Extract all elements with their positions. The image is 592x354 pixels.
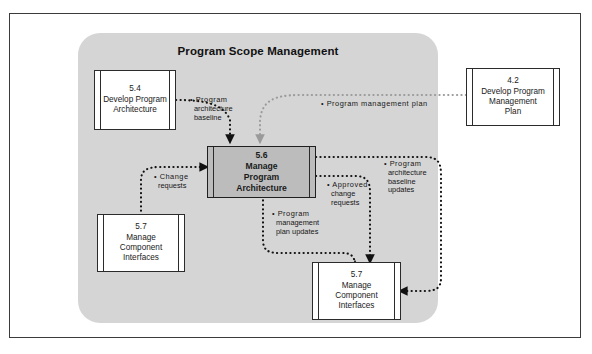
- process-node-manage-component-interfaces-bottom[interactable]: 5.7 Manage Component Interfaces: [312, 262, 401, 320]
- process-node-manage-component-interfaces-left[interactable]: 5.7 Manage Component Interfaces: [97, 214, 185, 272]
- node-side-bar-right: [553, 69, 559, 125]
- flow-label-line-4: updates: [388, 186, 414, 195]
- flow-label-program-management-plan-updates: • Program management plan updates: [272, 210, 319, 236]
- node-side-bar-right: [309, 147, 315, 197]
- node-name-line-2: Component: [335, 291, 377, 300]
- process-node-develop-program-management-plan[interactable]: 4.2 Develop Program Management Plan: [466, 68, 560, 126]
- node-name-line-2: Architecture: [113, 105, 157, 114]
- node-side-bar-left: [208, 147, 214, 197]
- node-name-line-3: Interfaces: [339, 301, 375, 310]
- flow-label-line-1: • Approved: [327, 180, 368, 189]
- process-node-manage-program-architecture[interactable]: 5.6 Manage Program Architecture: [207, 146, 316, 198]
- node-name-line-1: Develop Program: [103, 95, 167, 104]
- node-name-line-1: Manage: [342, 281, 372, 290]
- node-id: 5.7: [120, 222, 162, 232]
- flow-label-program-management-plan: • Program management plan: [321, 100, 428, 109]
- node-id: 5.7: [335, 270, 377, 280]
- node-name-line-2: Program: [244, 172, 279, 182]
- node-side-bar-left: [313, 263, 319, 319]
- node-name-line-1: Develop Program: [481, 87, 545, 96]
- flow-label-line-1: • Program management plan: [321, 99, 428, 108]
- node-name-line-2: Management: [489, 97, 537, 106]
- flow-label-line-1: • Program: [272, 209, 309, 218]
- flow-label-line-1: • Program: [384, 159, 421, 168]
- node-name-line-2: Component: [120, 243, 162, 252]
- node-side-bar-left: [467, 69, 473, 125]
- node-name-line-3: Plan: [505, 107, 521, 116]
- node-name-line-3: Interfaces: [123, 253, 159, 262]
- node-label: 5.7 Manage Component Interfaces: [327, 270, 385, 312]
- flow-label-change-requests: • Change requests: [154, 173, 189, 191]
- node-side-bar-right: [394, 263, 400, 319]
- node-id: 5.4: [103, 84, 167, 94]
- flow-label-line-1: • Program: [190, 95, 227, 104]
- node-id: 4.2: [481, 76, 545, 86]
- node-name-line-1: Manage: [246, 161, 278, 171]
- flow-label-line-3: requests: [331, 199, 359, 208]
- node-label: 5.6 Manage Program Architecture: [228, 150, 295, 194]
- flow-label-line-1: • Change: [154, 172, 189, 181]
- flow-label-line-3: plan updates: [276, 228, 318, 237]
- node-label: 4.2 Develop Program Management Plan: [473, 76, 553, 118]
- flow-label-program-architecture-baseline-updates: • Program architecture baseline updates: [384, 160, 427, 195]
- process-node-develop-program-architecture[interactable]: 5.4 Develop Program Architecture: [94, 70, 176, 130]
- node-side-bar-left: [98, 215, 104, 271]
- node-label: 5.7 Manage Component Interfaces: [112, 222, 170, 264]
- node-label: 5.4 Develop Program Architecture: [95, 84, 175, 115]
- flow-label-line-3: baseline: [194, 114, 222, 123]
- node-id: 5.6: [236, 150, 287, 161]
- flow-label-program-architecture-baseline: • Program architecture baseline: [190, 96, 233, 122]
- flow-label-line-2: requests: [158, 182, 186, 191]
- flow-label-approved-change-requests: • Approved change requests: [327, 181, 368, 207]
- node-name-line-3: Architecture: [236, 183, 287, 193]
- node-name-line-1: Manage: [126, 233, 156, 242]
- diagram-canvas: Program Scope Management 5.4 D: [0, 0, 592, 354]
- node-side-bar-right: [178, 215, 184, 271]
